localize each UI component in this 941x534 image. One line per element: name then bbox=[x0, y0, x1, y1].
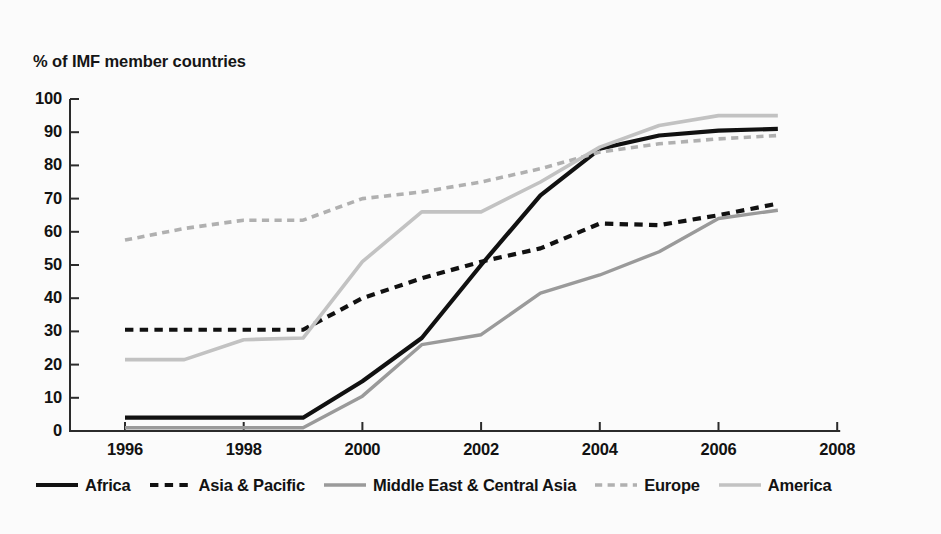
x-tick-label: 1996 bbox=[90, 440, 160, 459]
legend-item-europe[interactable]: Europe bbox=[595, 476, 700, 495]
legend-label: Africa bbox=[85, 476, 131, 495]
legend-swatch-icon bbox=[595, 478, 637, 492]
series-line-asia-pacific bbox=[125, 204, 778, 330]
y-tick-label: 90 bbox=[16, 122, 62, 141]
legend-label: Europe bbox=[644, 476, 700, 495]
x-tick-label: 2000 bbox=[327, 440, 397, 459]
legend-label: America bbox=[768, 476, 832, 495]
x-tick-label: 2004 bbox=[565, 440, 635, 459]
x-tick-label: 1998 bbox=[209, 440, 279, 459]
series-line-africa bbox=[125, 129, 778, 418]
legend-item-america[interactable]: America bbox=[719, 476, 832, 495]
y-tick-label: 20 bbox=[16, 355, 62, 374]
axis-lines bbox=[70, 99, 840, 431]
series-lines bbox=[125, 116, 778, 428]
y-tick-label: 50 bbox=[16, 255, 62, 274]
series-line-america bbox=[125, 116, 778, 360]
legend-swatch-icon bbox=[36, 478, 78, 492]
y-tick-label: 10 bbox=[16, 388, 62, 407]
y-tick-label: 60 bbox=[16, 222, 62, 241]
legend-swatch-icon bbox=[150, 478, 192, 492]
y-tick-label: 40 bbox=[16, 288, 62, 307]
y-tick-label: 80 bbox=[16, 155, 62, 174]
legend-item-middle-east-central-asia[interactable]: Middle East & Central Asia bbox=[324, 476, 576, 495]
legend-item-africa[interactable]: Africa bbox=[36, 476, 131, 495]
series-line-europe bbox=[125, 136, 778, 241]
y-tick-label: 0 bbox=[16, 421, 62, 440]
legend-swatch-icon bbox=[719, 478, 761, 492]
legend-label: Middle East & Central Asia bbox=[373, 476, 576, 495]
y-tick-label: 100 bbox=[16, 89, 62, 108]
legend-label: Asia & Pacific bbox=[199, 476, 305, 495]
y-tick-label: 70 bbox=[16, 189, 62, 208]
chart-page: % of IMF member countries 01020304050607… bbox=[0, 0, 941, 534]
y-tick-label: 30 bbox=[16, 321, 62, 340]
legend-swatch-icon bbox=[324, 478, 366, 492]
x-tick-label: 2002 bbox=[446, 440, 516, 459]
chart-legend: AfricaAsia & PacificMiddle East & Centra… bbox=[36, 470, 916, 500]
x-tick-label: 2006 bbox=[684, 440, 754, 459]
x-tick-label: 2008 bbox=[802, 440, 872, 459]
legend-item-asia-pacific[interactable]: Asia & Pacific bbox=[150, 476, 305, 495]
series-line-middle-east-central-asia bbox=[125, 210, 778, 427]
line-chart-figure: % of IMF member countries 01020304050607… bbox=[0, 0, 941, 534]
